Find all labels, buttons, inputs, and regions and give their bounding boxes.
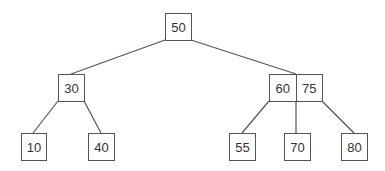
tree-node-leaf4: 70 <box>284 133 311 161</box>
node-key: 55 <box>230 134 255 160</box>
node-key: 75 <box>296 75 323 101</box>
tree-node-left: 30 <box>58 74 85 102</box>
edge-right-leaf3 <box>242 101 269 133</box>
tree-node-right: 60 75 <box>269 74 323 102</box>
node-key: 70 <box>285 134 310 160</box>
tree-node-leaf5: 80 <box>341 133 368 161</box>
node-key: 80 <box>342 134 367 160</box>
edge-left-leaf1 <box>33 101 58 133</box>
node-key: 60 <box>270 75 296 101</box>
tree-node-leaf2: 40 <box>88 133 115 161</box>
edge-right-leaf5 <box>322 101 354 133</box>
node-key: 40 <box>89 134 114 160</box>
edge-left-leaf2 <box>84 101 101 133</box>
edge-root-left <box>71 40 165 74</box>
edge-root-right <box>191 40 296 74</box>
tree-node-root: 50 <box>165 13 192 41</box>
tree-node-leaf1: 10 <box>21 133 47 161</box>
node-key: 50 <box>166 14 191 40</box>
node-key: 10 <box>22 134 46 160</box>
node-key: 30 <box>59 75 84 101</box>
tree-node-leaf3: 55 <box>229 133 256 161</box>
